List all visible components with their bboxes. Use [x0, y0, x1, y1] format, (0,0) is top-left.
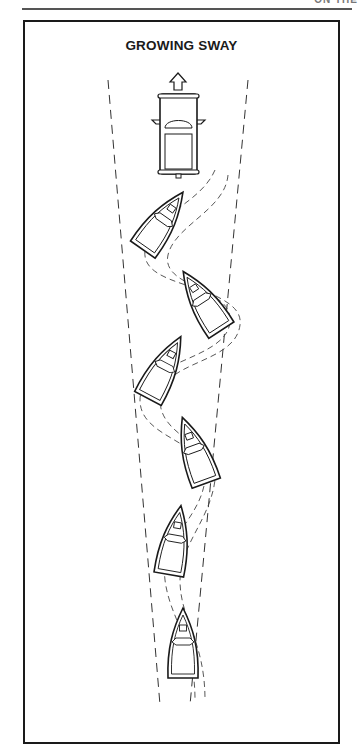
boat-3 [135, 330, 195, 406]
boat-4 [168, 412, 220, 488]
boat-6 [168, 608, 198, 678]
boat-5 [154, 503, 196, 577]
boat-1 [130, 184, 195, 259]
forward-arrow-icon [170, 73, 186, 90]
tow-vehicle [152, 73, 205, 178]
